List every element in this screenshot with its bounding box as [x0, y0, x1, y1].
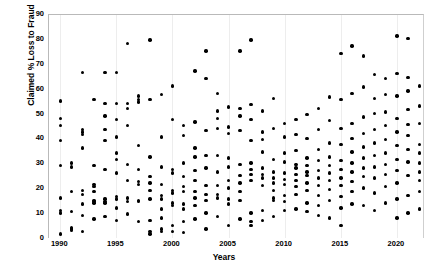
data-point [249, 220, 252, 223]
data-point [115, 158, 118, 161]
data-point [395, 216, 398, 219]
grid-line-1995 [116, 15, 117, 238]
data-point [148, 38, 151, 41]
data-point [204, 211, 207, 214]
data-point [92, 217, 95, 220]
x-tick-1995: 1995 [95, 240, 135, 248]
data-point [384, 93, 387, 96]
data-point [227, 156, 230, 159]
data-point [182, 185, 185, 188]
data-point [81, 146, 84, 149]
data-point [70, 165, 73, 168]
data-point [137, 183, 140, 186]
data-point [204, 227, 207, 230]
data-point [103, 215, 106, 218]
data-point [216, 154, 219, 157]
data-point [249, 118, 252, 121]
data-point [81, 133, 84, 136]
data-point [339, 143, 342, 146]
data-point [317, 184, 320, 187]
data-point [373, 97, 376, 100]
data-point [249, 103, 252, 106]
data-point [406, 134, 409, 137]
data-point [92, 201, 95, 204]
data-point [160, 165, 163, 168]
data-point [216, 184, 219, 187]
data-point [328, 95, 331, 98]
data-point [305, 137, 308, 140]
data-point [272, 215, 275, 218]
data-point [249, 38, 252, 41]
data-point [115, 118, 118, 121]
data-point [373, 191, 376, 194]
data-point [160, 93, 163, 96]
data-point [182, 190, 185, 193]
data-point [395, 197, 398, 200]
data-point [70, 210, 73, 213]
data-point [193, 69, 196, 72]
data-point [418, 104, 421, 107]
data-point [171, 171, 174, 174]
data-point [294, 133, 297, 136]
data-point [182, 134, 185, 137]
data-point [418, 170, 421, 173]
data-point [339, 159, 342, 162]
y-tick-20: 20 [22, 184, 44, 192]
data-point [384, 77, 387, 80]
data-point [362, 132, 365, 135]
data-point [160, 183, 163, 186]
data-point [126, 163, 129, 166]
data-point [204, 129, 207, 132]
data-point [193, 196, 196, 199]
data-point [92, 185, 95, 188]
data-point [249, 173, 252, 176]
data-point [305, 201, 308, 204]
data-point [395, 169, 398, 172]
data-point [418, 84, 421, 87]
x-tick-2020: 2020 [376, 240, 416, 248]
data-point [81, 189, 84, 192]
data-point [261, 138, 264, 141]
data-point [193, 179, 196, 182]
data-point [384, 173, 387, 176]
data-point [182, 175, 185, 178]
data-point [238, 199, 241, 202]
data-point [216, 215, 219, 218]
data-point [148, 98, 151, 101]
data-point [272, 170, 275, 173]
data-point [317, 194, 320, 197]
data-point [406, 123, 409, 126]
data-point [362, 156, 365, 159]
data-point [227, 132, 230, 135]
data-point [294, 193, 297, 196]
data-point [339, 176, 342, 179]
data-point [126, 200, 129, 203]
data-point [126, 212, 129, 215]
data-point [283, 151, 286, 154]
data-point [103, 168, 106, 171]
data-point [283, 194, 286, 197]
data-point [182, 207, 185, 210]
data-point [406, 194, 409, 197]
data-point [126, 102, 129, 105]
data-point [238, 163, 241, 166]
data-point [182, 202, 185, 205]
data-point [418, 179, 421, 182]
y-tick-90: 90 [22, 10, 44, 18]
data-point [148, 155, 151, 158]
data-point [126, 107, 129, 110]
data-point [261, 176, 264, 179]
data-point [238, 114, 241, 117]
data-point [384, 110, 387, 113]
data-point [362, 186, 365, 189]
data-point [294, 207, 297, 210]
data-point [193, 204, 196, 207]
data-point [171, 224, 174, 227]
data-point [395, 34, 398, 37]
data-point [160, 207, 163, 210]
data-point [339, 168, 342, 171]
data-point [160, 216, 163, 219]
data-point [339, 195, 342, 198]
data-point [328, 164, 331, 167]
data-point [317, 176, 320, 179]
